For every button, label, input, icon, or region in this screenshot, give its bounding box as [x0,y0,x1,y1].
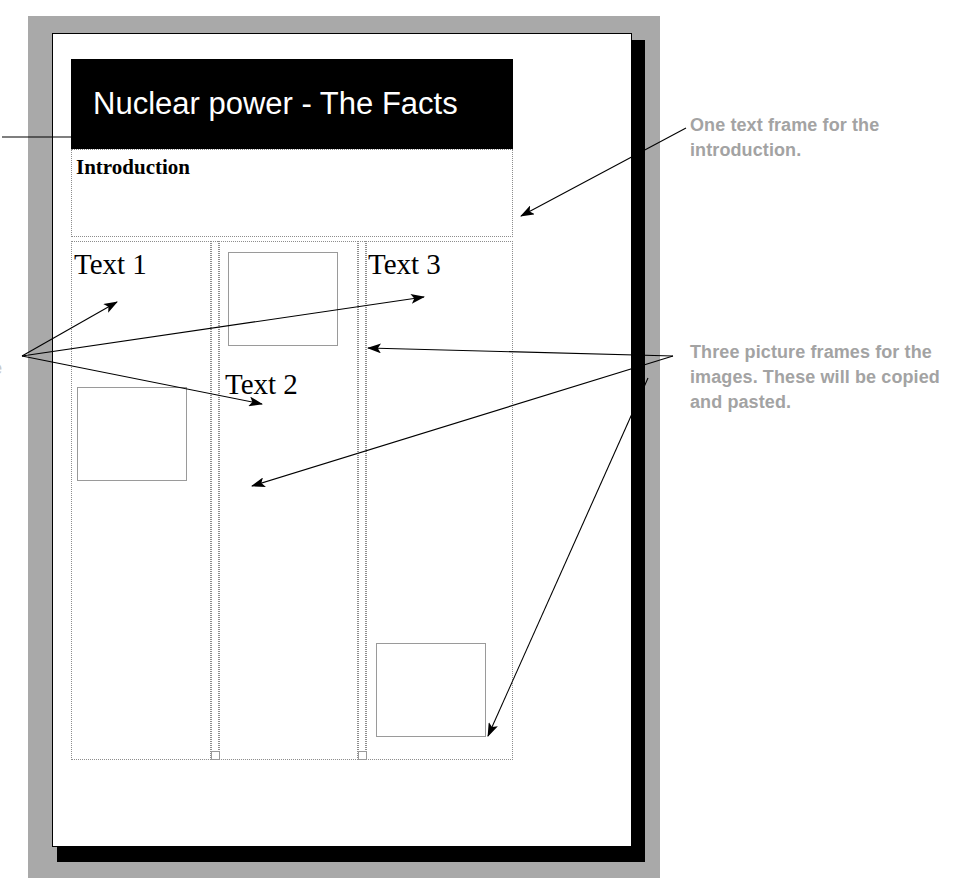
text-frame-label-2: Text 2 [225,368,298,401]
text-flow-link-handle-2[interactable] [358,751,367,760]
picture-frame-left[interactable] [77,387,187,481]
text-frame-column-1[interactable] [71,241,211,760]
title-banner-text: Nuclear power - The Facts [93,86,458,122]
title-banner-frame[interactable]: Nuclear power - The Facts [71,59,513,149]
text-frame-label-3: Text 3 [368,248,441,281]
picture-frame-bottom[interactable] [376,643,486,737]
screenshot-root: Nuclear power - The Facts Introduction T… [0,0,973,893]
clipped-edge-annotation-fragment: e [0,358,2,379]
text-frame-label-1: Text 1 [74,248,147,281]
column-gutter-2 [358,241,367,760]
column-gutter-1 [211,241,220,760]
picture-frame-top[interactable] [228,252,338,346]
annotation-picture-frames: Three picture frames for the images. The… [690,340,952,415]
text-flow-link-handle-1[interactable] [211,751,220,760]
introduction-label: Introduction [76,155,190,180]
annotation-introduction: One text frame for the introduction. [690,113,960,163]
